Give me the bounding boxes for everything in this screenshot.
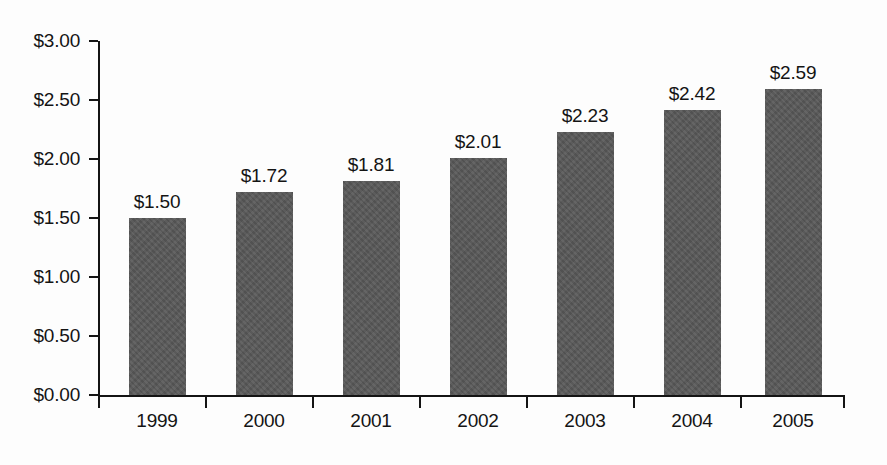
x-axis-category-label-2004: 2004 [637, 410, 747, 432]
x-axis-category-label-2002: 2002 [423, 410, 533, 432]
y-axis-tick-label-0: $0.00 [2, 384, 80, 406]
bar-chart-plot-area: $0.00 $0.50 $1.00 $1.50 $2.00 $2.50 $3.0… [0, 0, 887, 465]
y-axis-tick-0 [89, 394, 98, 396]
bar-2004[interactable] [664, 110, 721, 395]
x-axis-line [98, 395, 845, 397]
bar-value-label-2002: $2.01 [423, 131, 533, 153]
y-axis-tick-3 [89, 217, 98, 219]
y-axis-tick-label-2: $1.00 [2, 266, 80, 288]
x-axis-tick-5 [633, 397, 635, 408]
bar-2003[interactable] [557, 132, 614, 395]
x-axis-category-label-1999: 1999 [102, 410, 212, 432]
bar-2001[interactable] [343, 181, 400, 395]
y-axis-tick-2 [89, 276, 98, 278]
y-axis-tick-6 [89, 40, 98, 42]
x-axis-category-label-2005: 2005 [738, 410, 848, 432]
bar-2002[interactable] [450, 158, 507, 395]
bar-value-label-2003: $2.23 [530, 105, 640, 127]
bar-value-label-2005: $2.59 [738, 62, 848, 84]
x-axis-tick-1 [205, 397, 207, 408]
y-axis-tick-label-3: $1.50 [2, 207, 80, 229]
bar-1999[interactable] [129, 218, 186, 395]
y-axis-tick-4 [89, 158, 98, 160]
x-axis-tick-0 [98, 397, 100, 408]
y-axis-line [98, 41, 100, 397]
bar-value-label-2001: $1.81 [316, 154, 426, 176]
y-axis-tick-5 [89, 99, 98, 101]
x-axis-category-label-2001: 2001 [316, 410, 426, 432]
bar-2000[interactable] [236, 192, 293, 395]
y-axis-tick-label-6: $3.00 [2, 30, 80, 52]
chart-page: $0.00 $0.50 $1.00 $1.50 $2.00 $2.50 $3.0… [0, 0, 887, 465]
y-axis-tick-label-4: $2.00 [2, 148, 80, 170]
x-axis-category-label-2000: 2000 [209, 410, 319, 432]
x-axis-tick-7 [843, 397, 845, 408]
y-axis-tick-label-1: $0.50 [2, 325, 80, 347]
x-axis-category-label-2003: 2003 [530, 410, 640, 432]
bar-2005[interactable] [765, 89, 822, 395]
y-axis-tick-1 [89, 335, 98, 337]
x-axis-tick-3 [419, 397, 421, 408]
x-axis-tick-2 [312, 397, 314, 408]
bar-value-label-2000: $1.72 [209, 165, 319, 187]
x-axis-tick-6 [740, 397, 742, 408]
bar-value-label-1999: $1.50 [102, 191, 212, 213]
bar-value-label-2004: $2.42 [637, 83, 747, 105]
y-axis-tick-label-5: $2.50 [2, 89, 80, 111]
x-axis-tick-4 [526, 397, 528, 408]
